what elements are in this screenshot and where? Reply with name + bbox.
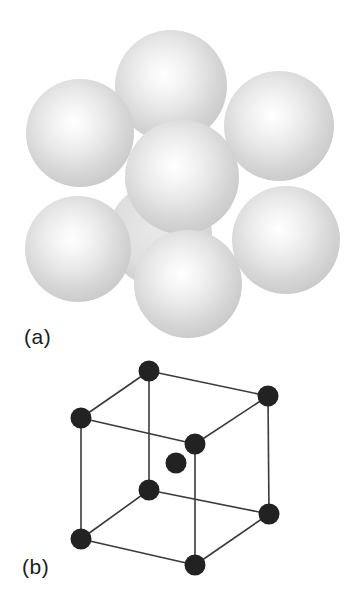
panel-b-label: (b) xyxy=(22,555,49,579)
cube-edge xyxy=(81,539,195,565)
atom-corner-bottom-back xyxy=(139,480,160,501)
cube-edge xyxy=(81,490,149,539)
bcc-unit-cell-diagram xyxy=(0,0,360,611)
atom-corner-top-right xyxy=(258,386,279,407)
atom-corner-bottom-right xyxy=(259,504,280,525)
bcc-unit-cell-panel: (b) xyxy=(0,0,360,611)
cube-edge xyxy=(195,514,269,565)
atom-body-center xyxy=(166,453,187,474)
figure-canvas: (a) (b) xyxy=(0,0,360,611)
atom-corner-bottom-left xyxy=(71,529,92,550)
cube-edge xyxy=(81,418,195,444)
cube-edge xyxy=(195,396,268,444)
atom-corner-top-front xyxy=(185,434,206,455)
atom-corner-top-left xyxy=(71,408,92,429)
atom-corner-bottom-front xyxy=(185,555,206,576)
cube-edge xyxy=(149,490,269,514)
atom-corner-top-back xyxy=(139,361,160,382)
cube-edge xyxy=(81,371,149,418)
cube-edge xyxy=(149,371,268,396)
cube-edge xyxy=(268,396,269,514)
